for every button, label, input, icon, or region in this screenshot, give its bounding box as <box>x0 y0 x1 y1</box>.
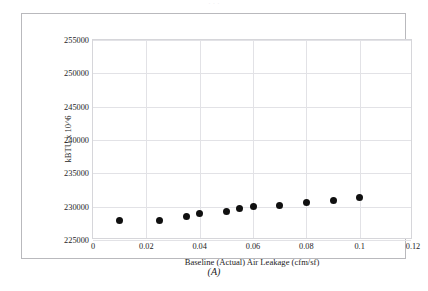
y-tick-label: 230000 <box>64 202 89 211</box>
gridline-vertical <box>306 40 307 238</box>
gridline-horizontal <box>93 173 411 174</box>
gridline-horizontal <box>93 73 411 74</box>
y-tick-label: 235000 <box>64 169 89 178</box>
x-tick-label: 0 <box>91 242 95 251</box>
data-point <box>196 210 203 217</box>
data-point <box>250 203 257 210</box>
x-tick-label: 0.06 <box>246 242 261 251</box>
y-tick-label: 245000 <box>64 102 89 111</box>
data-point <box>330 197 337 204</box>
gridline-horizontal <box>93 240 411 241</box>
y-tick-label: 250000 <box>64 69 89 78</box>
data-point <box>223 208 230 215</box>
figure-caption: (A) <box>0 266 428 277</box>
data-point <box>276 202 283 209</box>
gridline-horizontal <box>93 107 411 108</box>
data-point <box>116 217 123 224</box>
data-point <box>303 199 310 206</box>
gridline-vertical <box>200 40 201 238</box>
figure-panel: · · · 2250002300002350002400002450002500… <box>0 0 428 291</box>
figure-border: 2250002300002350002400002450002500002550… <box>21 13 406 259</box>
x-tick-label: 0.12 <box>406 242 421 251</box>
clipped-header-text: · · · <box>0 0 428 7</box>
y-tick-label: 225000 <box>64 236 89 245</box>
y-tick-label: 255000 <box>64 36 89 45</box>
data-point <box>183 213 190 220</box>
gridline-horizontal <box>93 40 411 41</box>
gridline-horizontal <box>93 140 411 141</box>
scatter-plot-area: 2250002300002350002400002450002500002550… <box>92 39 412 239</box>
data-point <box>356 194 363 201</box>
data-point <box>236 205 243 212</box>
gridline-vertical <box>360 40 361 238</box>
x-tick-label: 0.04 <box>192 242 207 251</box>
gridline-vertical <box>146 40 147 238</box>
data-point <box>156 217 163 224</box>
x-tick-label: 0.02 <box>139 242 154 251</box>
x-tick-label: 0.1 <box>354 242 364 251</box>
y-axis-title: kBTU x 10^6 <box>63 115 73 162</box>
x-tick-label: 0.08 <box>299 242 314 251</box>
